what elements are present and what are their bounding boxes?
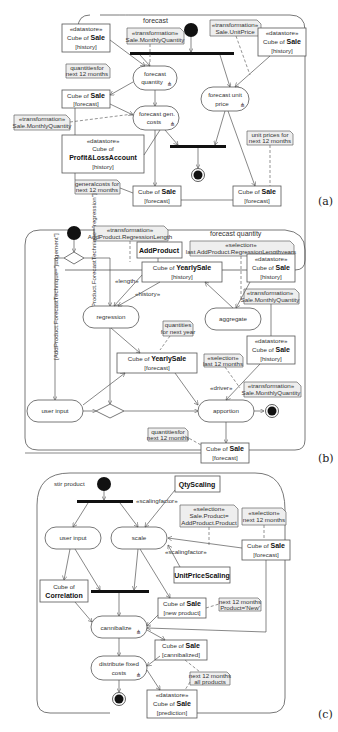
svg-text:Profit&LossAccount: Profit&LossAccount <box>69 154 137 161</box>
svg-text:[forecast]: [forecast] <box>73 100 99 107</box>
action-user-input-c: user input <box>45 527 101 549</box>
svg-text:«datastore»: «datastore» <box>156 691 189 698</box>
note-unit-prices-next12: unit prices for next 12 months <box>247 131 293 145</box>
action-forecast-gen-costs: forecast gen. costs ⋔ <box>133 106 179 130</box>
object-sale-new-product: Cube of Sale [new product] <box>158 598 206 618</box>
svg-text:apportion: apportion <box>213 407 239 414</box>
object-qtyscaling: QtyScaling <box>175 476 220 492</box>
svg-text:Sale.MonthlyQuantity: Sale.MonthlyQuantity <box>242 389 302 396</box>
svg-text:costs: costs <box>147 118 161 125</box>
svg-text:last 12 months: last 12 months <box>203 360 243 367</box>
svg-text:AddProduct: AddProduct <box>139 247 180 254</box>
object-sale-history-b1: «datastore» Cube of Sale [history] <box>247 254 295 282</box>
activity-diagrams: forecast «datastore» Cube of Sale [histo… <box>0 0 338 732</box>
svg-text:«transformation»: «transformation» <box>107 226 154 233</box>
svg-text:Cube of: Cube of <box>92 145 114 152</box>
svg-text:[forecast]: [forecast] <box>244 197 270 204</box>
action-forecast-quantity: forecast quantity ⋔ <box>133 66 177 90</box>
svg-text:«datastore»: «datastore» <box>87 137 120 144</box>
note-tr-monthly-qty-mid: «transformation» Sale.MonthlyQuantity <box>13 115 73 130</box>
action-regression: regression <box>83 306 139 328</box>
svg-text:Sale.Product=: Sale.Product= <box>189 512 228 519</box>
object-sale-history-left: «datastore» Cube of Sale [history] <box>62 24 110 52</box>
note-tr-monthly-qty-top: «transformation» Sale.MonthlyQuantity <box>126 28 186 44</box>
svg-text:price: price <box>215 100 229 107</box>
note-sel-product: «selection» Sale.Product= AddProduct.Pro… <box>180 505 238 527</box>
action-aggregate: aggregate <box>205 308 261 330</box>
panel-a: forecast «datastore» Cube of Sale [histo… <box>13 15 334 270</box>
object-sale-forecast-b: Cube of Sale [forecast] <box>201 443 249 463</box>
guard-regression: [AddProduct.ForecastTechnique="regressio… <box>90 193 97 320</box>
svg-text:[history]: [history] <box>92 163 114 170</box>
svg-text:[forecast]: [forecast] <box>253 551 279 558</box>
svg-text:quantities: quantities <box>165 321 192 328</box>
rake-icon: ⋔ <box>170 120 175 127</box>
note-tr-unit-price: «transformation» Sale.UnitPrice <box>210 20 261 36</box>
svg-text:Cube of Sale: Cube of Sale <box>67 92 105 99</box>
action-apportion: apportion <box>198 400 254 422</box>
svg-text:next 12 months: next 12 months <box>147 434 189 441</box>
initial-node <box>67 226 81 240</box>
panel-b-title: forecast quantity <box>210 230 262 238</box>
svg-text:«transformation»: «transformation» <box>132 29 179 36</box>
object-yearlysale-forecast: Cube of YearlySale [forecast] <box>117 353 197 373</box>
action-forecast-unit-price: forecast unit price ⋔ <box>201 87 249 111</box>
action-user-input: user input <box>27 400 83 422</box>
note-tr-monthly-qty-b2: «transformation» Sale.MonthlyQuantity <box>242 382 302 397</box>
svg-text:Cube of Sale: Cube of Sale <box>247 542 285 549</box>
label-driver: «driver» <box>210 384 233 391</box>
object-sale-history-b2: «datastore» Cube of Sale [history] <box>247 336 295 364</box>
svg-text:[prediction]: [prediction] <box>157 709 188 716</box>
label-length: «length» <box>115 277 139 284</box>
decision-node <box>64 252 84 264</box>
panel-c-label: (c) <box>318 708 333 721</box>
note-general-costs: generalcosts for next 12 months <box>75 180 120 194</box>
svg-text:Sale.MonthlyQuantity: Sale.MonthlyQuantity <box>241 296 301 303</box>
note-qty-next-year: quantities for next year <box>161 321 195 336</box>
svg-text:Correlation: Correlation <box>45 592 82 599</box>
svg-text:UnitPriceScaling: UnitPriceScaling <box>174 572 230 580</box>
initial-node <box>97 477 111 491</box>
svg-text:[history]: [history] <box>75 43 97 50</box>
svg-text:[history]: [history] <box>271 47 293 54</box>
object-sale-forecast-1: Cube of Sale [forecast] <box>62 90 110 108</box>
svg-text:aggregate: aggregate <box>219 315 247 322</box>
panel-c-title: stir product <box>54 480 85 487</box>
svg-text:regression: regression <box>97 313 126 320</box>
rake-icon: ⋔ <box>136 671 141 678</box>
object-sale-history-right: «datastore» Cube of Sale [history] <box>258 28 306 56</box>
svg-text:Sale.UnitPrice: Sale.UnitPrice <box>215 28 255 35</box>
svg-text:«selection»: «selection» <box>225 241 257 248</box>
note-tr-monthly-qty-b1: «transformation» Sale.MonthlyQuantity <box>241 289 301 304</box>
svg-text:forecast gen.: forecast gen. <box>139 110 175 117</box>
guard-judgement: [AddProduct.ForecastTechnique="judgement… <box>52 233 59 360</box>
svg-text:Cube of Sale: Cube of Sale <box>206 445 244 452</box>
svg-text:cannibalize: cannibalize <box>101 624 133 631</box>
svg-text:user input: user input <box>41 407 68 414</box>
rake-icon: ⋔ <box>240 101 245 108</box>
svg-text:Cube of Sale: Cube of Sale <box>163 600 201 607</box>
svg-text:[history]: [history] <box>260 273 282 280</box>
svg-text:«transformation»: «transformation» <box>212 21 259 28</box>
svg-text:next 12 months: next 12 months <box>243 516 285 523</box>
svg-text:costs: costs <box>112 669 126 676</box>
svg-text:Cube of Sale: Cube of Sale <box>252 346 290 353</box>
svg-text:[history]: [history] <box>260 355 282 362</box>
svg-text:«transformation»: «transformation» <box>247 289 294 296</box>
svg-text:«selection»: «selection» <box>193 505 225 512</box>
svg-text:[history]: [history] <box>171 273 193 280</box>
svg-text:Cube of Sale: Cube of Sale <box>153 700 191 707</box>
svg-text:Cube of Sale: Cube of Sale <box>238 188 276 195</box>
svg-text:[new product]: [new product] <box>163 609 200 616</box>
note-qty-next12: quantitiesfor next 12 months <box>66 64 110 78</box>
svg-text:[forecast]: [forecast] <box>144 197 170 204</box>
svg-text:forecast: forecast <box>144 70 166 77</box>
svg-text:«transformation»: «transformation» <box>19 115 66 122</box>
label-scalingfactor-top: «scalingfactor» <box>136 497 178 504</box>
svg-text:forecast unit: forecast unit <box>208 91 242 98</box>
label-history: «history» <box>135 290 161 297</box>
svg-text:next 12 months: next 12 months <box>76 186 118 193</box>
panel-a-title: forecast <box>143 17 168 24</box>
fork-bar <box>77 500 133 503</box>
svg-text:AddProduct.Product: AddProduct.Product <box>181 519 237 526</box>
